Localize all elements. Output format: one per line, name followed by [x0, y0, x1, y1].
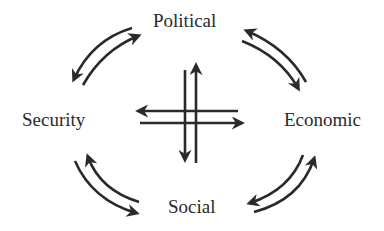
- arrow-security-to-social: [75, 161, 136, 213]
- arrow-security-to-political: [83, 36, 138, 85]
- node-political: Political: [153, 11, 216, 30]
- arrow-social-to-security: [88, 157, 139, 202]
- node-economic: Economic: [284, 110, 361, 129]
- arrow-political-to-security: [74, 28, 132, 79]
- arrow-economic-to-social: [250, 155, 303, 203]
- arrow-economic-to-political: [247, 31, 306, 82]
- interaction-diagram: Political Economic Social Security: [0, 0, 384, 231]
- node-security: Security: [22, 110, 85, 129]
- node-social: Social: [168, 197, 216, 216]
- arrow-political-to-economic: [242, 41, 298, 88]
